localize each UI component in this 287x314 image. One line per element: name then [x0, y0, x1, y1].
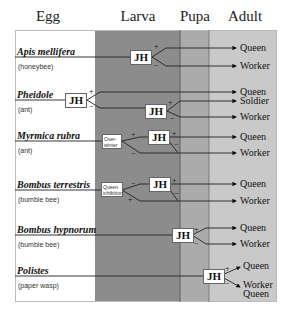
- plus-sign: +: [172, 177, 177, 185]
- common-name-honeybee: (honeybee): [18, 63, 53, 70]
- outcome-soldier: Soldier: [240, 96, 269, 106]
- minus-sign: −: [170, 115, 175, 123]
- minus-sign: −: [154, 62, 159, 70]
- species-apis-mellifera: Apis mellifera: [17, 46, 75, 57]
- queen-inhibition-box: Queen inhibition: [101, 182, 123, 197]
- plus-sign: +: [89, 88, 94, 96]
- minus-sign: −: [131, 150, 136, 158]
- outcome-queen: Queen: [240, 223, 266, 233]
- common-name-paper-wasp: (paper wasp): [18, 282, 59, 289]
- plus-sign: +: [154, 43, 159, 51]
- over-winter-box: Over-winter: [102, 134, 122, 149]
- outcome-worker: Worker: [240, 112, 270, 122]
- outcome-queen: Queen: [240, 179, 266, 189]
- common-name-bumble-bee: (bumble bee): [18, 196, 59, 203]
- outcome-worker: Worker: [240, 61, 270, 71]
- common-name-bumble-bee: (bumble bee): [18, 241, 59, 248]
- outcome-queen: Queen: [240, 132, 266, 142]
- minus-sign: −: [131, 180, 136, 188]
- minus-sign: −: [174, 190, 179, 198]
- outcome-queen: Queen: [243, 261, 269, 271]
- species-bombus-hypnorum: Bombus hypnorum: [17, 224, 96, 235]
- jh-box-pheidole-1: JH: [65, 93, 87, 108]
- minus-sign: −: [225, 280, 230, 288]
- outcome-worker: Worker: [240, 148, 270, 158]
- minus-sign: −: [194, 240, 199, 248]
- outcome-worker: Worker: [240, 239, 270, 249]
- common-name-ant: (ant): [18, 147, 32, 154]
- outcome-queen: Queen: [240, 43, 266, 53]
- minus-sign: −: [174, 141, 179, 149]
- plus-sign: +: [194, 226, 199, 234]
- plus-sign: +: [131, 131, 136, 139]
- species-pheidole: Pheidole: [17, 89, 53, 100]
- species-polistes: Polistes: [17, 265, 49, 276]
- species-bombus-terrestris: Bombus terrestris: [17, 179, 90, 190]
- jh-box-apis: JH: [130, 50, 152, 65]
- jh-box-myrmica: JH: [148, 130, 170, 145]
- plus-sign: +: [172, 130, 177, 138]
- outcome-queen: Queen: [243, 289, 269, 299]
- plus-sign: +: [128, 196, 133, 204]
- jh-box-bombus-terrestris: JH: [149, 177, 171, 192]
- species-myrmica-rubra: Myrmica rubra: [17, 130, 80, 141]
- plus-sign: +: [168, 99, 173, 107]
- outcome-worker: Worker: [240, 196, 270, 206]
- plus-sign: +: [225, 265, 230, 273]
- jh-box-bombus-hypnorum: JH: [172, 228, 194, 243]
- jh-box-polistes: JH: [203, 269, 225, 284]
- minus-sign: −: [89, 103, 94, 111]
- common-name-ant: (ant): [18, 106, 32, 113]
- jh-box-pheidole-2: JH: [145, 104, 167, 119]
